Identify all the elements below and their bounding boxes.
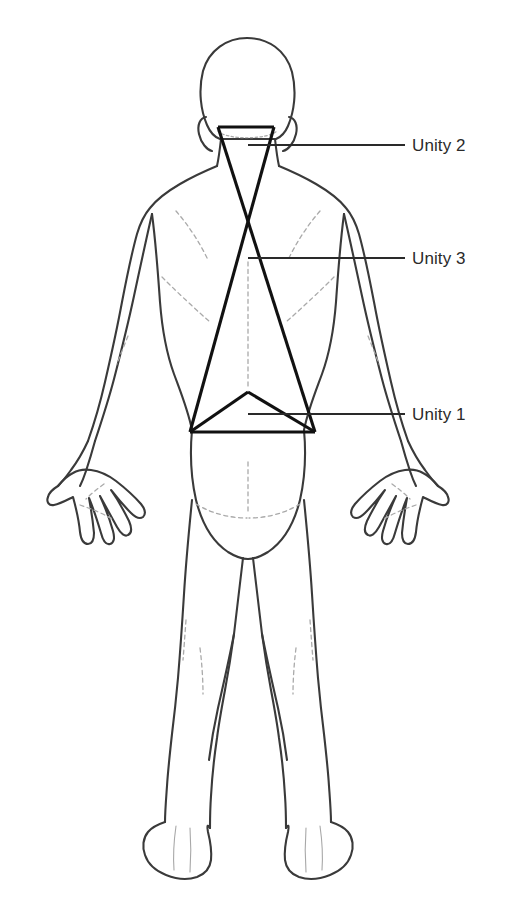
foot-left-outline	[143, 822, 211, 879]
leg-right-outer	[304, 500, 331, 822]
head-outline	[200, 38, 294, 139]
forearm-left-inner	[80, 441, 95, 486]
neck-left	[217, 139, 221, 166]
heel-left-crease-a	[174, 826, 176, 870]
hand-right-outline	[351, 470, 448, 545]
forearm-right-inner	[401, 441, 416, 486]
label-unity-3: Unity 3	[412, 250, 466, 267]
label-unity-2: Unity 2	[412, 137, 466, 154]
lat-line-left	[162, 277, 210, 322]
knee-line-left	[183, 620, 186, 660]
gluteal-fold-left	[196, 504, 247, 518]
leg-right-inner	[253, 558, 286, 828]
foot-right-outline	[285, 822, 353, 879]
scapula-line-right	[288, 211, 320, 260]
nape-hairline	[218, 131, 277, 138]
calf-detail-left	[200, 648, 203, 694]
cropped-caption-text	[62, 891, 66, 897]
anatomy-detail-group	[80, 211, 416, 694]
knee-line-right	[310, 620, 313, 660]
elbow-crease-right	[368, 336, 379, 364]
label-unity-1: Unity 1	[412, 406, 466, 423]
hand-left-outline	[47, 470, 144, 545]
calf-detail-right	[293, 648, 296, 694]
body-outline-group	[47, 38, 448, 879]
lat-line-right	[286, 277, 334, 322]
heel-right-crease-b	[305, 828, 306, 872]
calf-left-inner	[209, 634, 234, 760]
gluteal-fold-right	[249, 504, 300, 518]
arm-left-inner	[95, 214, 152, 441]
elbow-crease-left	[117, 336, 128, 364]
anatomical-diagram: Unity 2 Unity 3 Unity 1	[0, 0, 505, 905]
calf-right-inner	[262, 634, 287, 760]
heel-right-crease-a	[320, 826, 322, 870]
heel-left-crease-b	[190, 828, 191, 872]
cropped-caption-strip	[0, 891, 505, 905]
scapula-line-left	[176, 211, 208, 260]
trunk-side-left	[152, 214, 192, 430]
neck-right	[275, 139, 279, 166]
trunk-side-right	[304, 214, 344, 430]
leg-left-inner	[210, 558, 243, 828]
leg-left-outer	[165, 500, 192, 822]
arm-right-inner	[344, 214, 401, 441]
